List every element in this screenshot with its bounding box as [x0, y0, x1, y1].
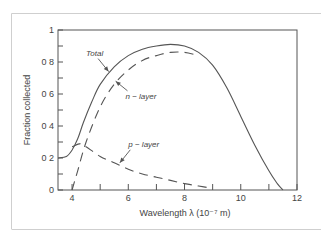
- annotation-label: p − layer: [127, 140, 159, 149]
- annotation-label: n − layer: [125, 92, 156, 101]
- series-n-layer: [72, 52, 199, 190]
- x-tick-label: 6: [126, 193, 131, 203]
- x-tick-label: 8: [182, 193, 187, 203]
- series-p-layer: [72, 144, 213, 189]
- x-tick-label: 10: [236, 193, 246, 203]
- data-series: [58, 44, 283, 190]
- y-tick-label: 0 6: [41, 89, 54, 99]
- x-tick-label: 4: [70, 193, 75, 203]
- y-axis-label: Fraction collected: [22, 75, 32, 146]
- tick-labels: 468101200 20 40 60 81: [41, 25, 302, 203]
- y-tick-label: 1: [49, 25, 54, 35]
- annotation-label: Total: [86, 49, 103, 58]
- y-tick-label: 0 4: [41, 121, 54, 131]
- annotations: Totaln − layerp − layer: [86, 49, 159, 163]
- x-tick-label: 12: [292, 193, 302, 203]
- y-tick-label: 0 8: [41, 57, 54, 67]
- y-tick-label: 0: [49, 185, 54, 195]
- chart: 468101200 20 40 60 81 Totaln − layerp − …: [0, 0, 321, 237]
- x-axis-label: Wavelength λ (10⁻⁷ m): [140, 208, 231, 218]
- series-total: [58, 44, 283, 190]
- y-tick-label: 0 2: [41, 153, 54, 163]
